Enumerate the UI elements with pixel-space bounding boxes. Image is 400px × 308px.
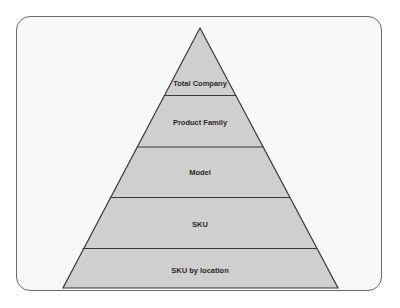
level-sku: SKU <box>192 220 208 229</box>
level-sku-by-location: SKU by location <box>171 266 229 275</box>
pyramid-diagram: Total Company Product Family Model SKU S… <box>0 0 400 308</box>
level-model: Model <box>189 168 211 177</box>
level-product-family: Product Family <box>173 118 228 127</box>
level-total-company: Total Company <box>173 79 227 88</box>
